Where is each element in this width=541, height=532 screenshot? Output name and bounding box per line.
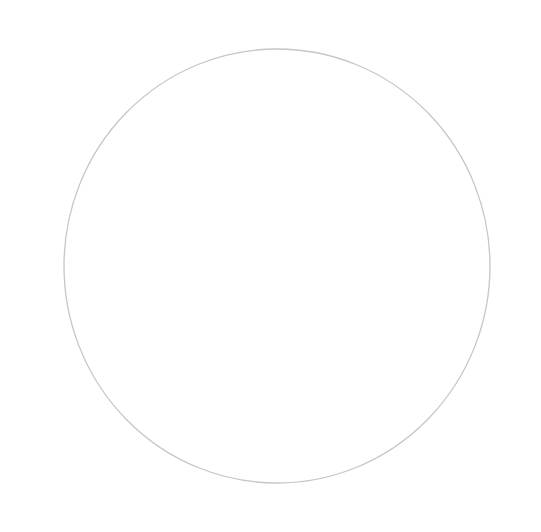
drawing-canvas — [0, 0, 541, 532]
paper-background — [0, 0, 541, 532]
